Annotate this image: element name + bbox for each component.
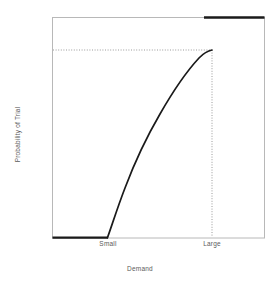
y-axis-title: Probability of Trial <box>14 75 21 195</box>
probability-curve <box>108 50 213 238</box>
x-axis-title: Demand <box>0 265 280 272</box>
xtick-label-small: Small <box>78 240 138 247</box>
xtick-label-large: Large <box>182 240 242 247</box>
plot-frame <box>53 18 265 239</box>
probability-of-trial-plot <box>0 0 280 281</box>
chart-figure: Small Large Demand Probability of Trial <box>0 0 280 281</box>
